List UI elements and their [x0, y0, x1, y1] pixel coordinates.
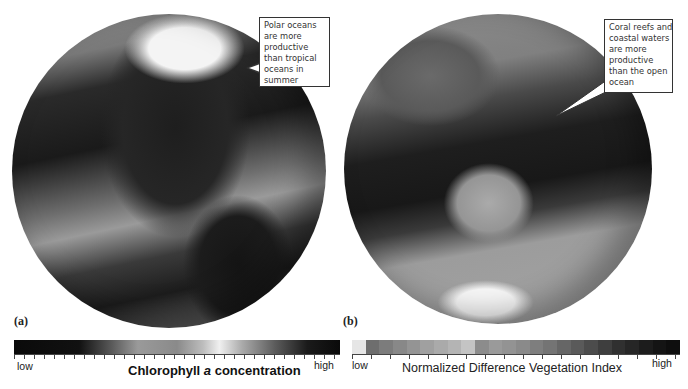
- ndvi-swatch: [543, 340, 557, 354]
- title-text: concentration: [211, 363, 301, 378]
- callout-line: than tropical: [264, 53, 326, 64]
- ndvi-swatch: [666, 340, 680, 354]
- ndvi-swatch: [352, 340, 366, 354]
- title-italic: a: [204, 363, 211, 378]
- callout-line: coastal waters: [609, 33, 669, 44]
- chlorophyll-scale-ticks: [14, 354, 340, 359]
- chlorophyll-scale-high: high: [314, 359, 334, 371]
- ndvi-swatch: [407, 340, 421, 354]
- ndvi-color-scale: [352, 340, 680, 354]
- ndvi-swatch: [475, 340, 489, 354]
- ndvi-swatch: [530, 340, 544, 354]
- ndvi-scale-ticks: [352, 354, 680, 359]
- ndvi-swatch: [420, 340, 434, 354]
- ndvi-swatch: [366, 340, 380, 354]
- ndvi-swatch: [653, 340, 667, 354]
- ndvi-scale-high: high: [652, 357, 672, 369]
- callout-line: are more: [264, 31, 326, 42]
- callout-line: are more: [609, 44, 669, 55]
- ndvi-swatch: [625, 340, 639, 354]
- callout-line: productive: [264, 42, 326, 53]
- ndvi-swatch: [434, 340, 448, 354]
- callout-line: ocean: [609, 77, 669, 88]
- callout-line: than the open: [609, 66, 669, 77]
- ndvi-swatch: [571, 340, 585, 354]
- ndvi-swatch: [489, 340, 503, 354]
- chlorophyll-scale-low: low: [17, 360, 33, 372]
- ndvi-swatch: [612, 340, 626, 354]
- ndvi-swatch: [502, 340, 516, 354]
- ndvi-swatch: [598, 340, 612, 354]
- title-text: Chlorophyll: [128, 363, 204, 378]
- ndvi-swatch: [516, 340, 530, 354]
- callout-line: Coral reefs and: [609, 22, 669, 33]
- ndvi-swatch: [448, 340, 462, 354]
- panel-label-a: (a): [14, 314, 28, 329]
- callout-line: oceans in: [264, 64, 326, 75]
- ndvi-swatch: [379, 340, 393, 354]
- ndvi-swatch: [461, 340, 475, 354]
- ndvi-swatch: [639, 340, 653, 354]
- callout-b-pointer: [552, 80, 612, 120]
- ndvi-swatch: [393, 340, 407, 354]
- ndvi-swatch: [557, 340, 571, 354]
- callout-coral-reefs: Coral reefs and coastal waters are more …: [604, 19, 673, 93]
- chlorophyll-scale-title: Chlorophyll a concentration: [128, 363, 301, 378]
- ndvi-swatch: [584, 340, 598, 354]
- ndvi-scale-title: Normalized Difference Vegetation Index: [402, 361, 622, 375]
- ndvi-scale-low: low: [352, 359, 368, 371]
- panel-label-b: (b): [343, 314, 358, 329]
- chlorophyll-color-scale: [14, 340, 340, 354]
- callout-polar-oceans: Polar oceans are more productive than tr…: [259, 17, 330, 87]
- callout-line: Polar oceans: [264, 20, 326, 31]
- callout-line: summer: [264, 75, 326, 86]
- callout-line: productive: [609, 55, 669, 66]
